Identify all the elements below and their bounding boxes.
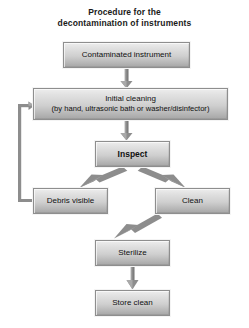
node-sterilize-label: Sterilize	[118, 248, 146, 258]
edge-initial-to-inspect	[121, 120, 133, 141]
node-clean-label: Clean	[182, 196, 203, 206]
node-clean[interactable]: Clean	[155, 188, 230, 214]
edge-clean-to-sterilize	[114, 214, 162, 239]
edge-sterilize-to-store	[127, 266, 139, 290]
node-initial-cleaning[interactable]: Initial cleaning (by hand, ultrasonic ba…	[33, 88, 228, 120]
edge-inspect-to-clean	[138, 167, 186, 188]
node-contaminated-instrument[interactable]: Contaminated instrument	[63, 42, 190, 68]
node-initial-cleaning-label: Initial cleaning	[105, 94, 156, 104]
node-sterilize[interactable]: Sterilize	[95, 240, 170, 266]
edge-contaminated-to-initial	[121, 68, 133, 89]
node-inspect-label: Inspect	[118, 149, 148, 159]
flowchart-canvas: Procedure for the decontamination of ins…	[0, 0, 249, 328]
edge-inspect-to-debris	[80, 167, 128, 188]
node-inspect[interactable]: Inspect	[95, 141, 170, 167]
node-debris-visible-label: Debris visible	[47, 196, 95, 206]
node-contaminated-instrument-label: Contaminated instrument	[82, 50, 171, 60]
node-store-clean-label: Store clean	[112, 298, 152, 308]
node-store-clean[interactable]: Store clean	[95, 290, 170, 316]
node-initial-cleaning-sublabel: (by hand, ultrasonic bath or washer/disi…	[52, 104, 210, 114]
node-debris-visible[interactable]: Debris visible	[33, 188, 108, 214]
